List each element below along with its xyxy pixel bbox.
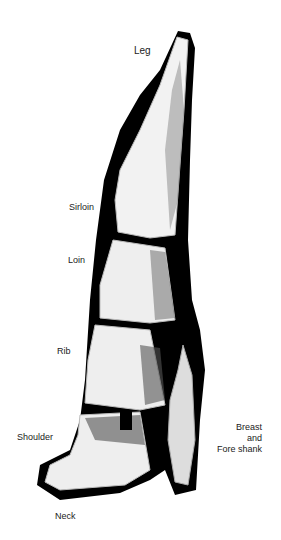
label-shoulder: Shoulder [17, 432, 53, 443]
label-neck: Neck [55, 511, 76, 522]
lamb-carcass-illustration [0, 0, 281, 540]
bone-block [120, 410, 132, 430]
label-loin: Loin [68, 255, 85, 266]
label-breast-line3: Fore shank [217, 444, 262, 455]
label-breast-foreshank: Breast and Fore shank [217, 422, 262, 455]
label-leg: Leg [134, 45, 151, 56]
label-breast-line1: Breast [217, 422, 262, 433]
label-breast-line2: and [217, 433, 262, 444]
label-sirloin: Sirloin [69, 202, 94, 213]
label-rib: Rib [57, 346, 71, 357]
